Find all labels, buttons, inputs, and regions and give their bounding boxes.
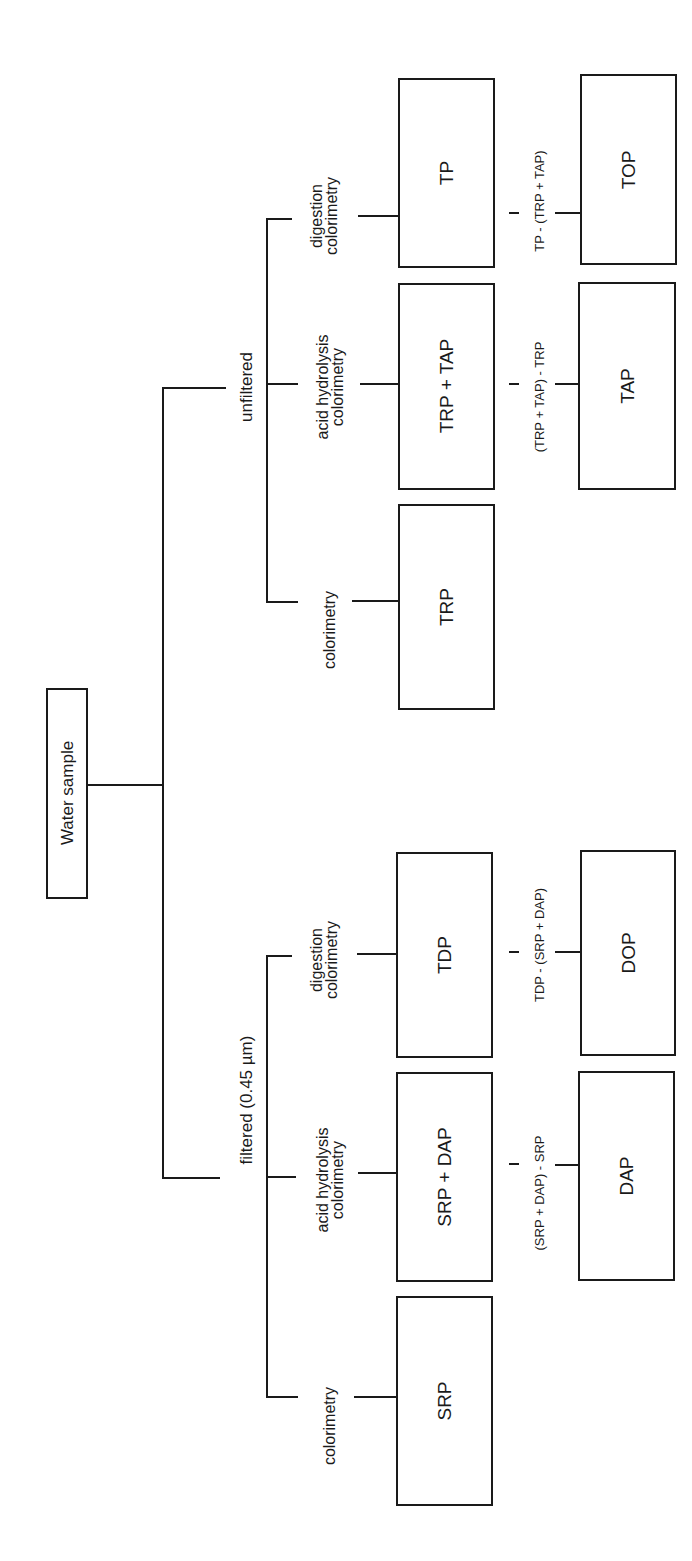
measured-label-tp: TP [437, 161, 456, 185]
unfiltered-colorimetry-to-box [352, 600, 398, 602]
unfiltered-digestion-tick [266, 218, 292, 220]
unfiltered-acid-to-box [360, 383, 398, 385]
root-connector [88, 784, 164, 786]
derived-label-dap: DAP [617, 1156, 636, 1195]
formula-tdp-dop: TDP - (SRP + DAP) [533, 888, 546, 1002]
filtered-colorimetry-to-box [354, 1396, 396, 1398]
derived-label-dop: DOP [619, 932, 638, 973]
method-line: colorimetry [324, 177, 339, 255]
branch-label-filtered: filtered (0.45 µm) [238, 1036, 255, 1165]
srp-dap-to-dap-connector [555, 1164, 578, 1166]
filtered-connector [162, 1177, 220, 1179]
formula-trp-tap-tap: (TRP + TAP) - TRP [533, 342, 546, 453]
measured-label-trp-tap: TRP + TAP [437, 339, 456, 434]
measured-label-trp: TRP [437, 588, 456, 626]
method-line: digestion [309, 921, 324, 999]
method-label-filtered-colorimetry: colorimetry [322, 1387, 337, 1465]
trp-tap-formula-tick [509, 383, 519, 385]
method-line: acid hydrolysis [315, 335, 330, 440]
measured-label-tdp: TDP [435, 936, 454, 974]
method-label-filtered-acid: acid hydrolysis colorimetry [315, 1128, 345, 1233]
method-label-unfiltered-colorimetry: colorimetry [322, 591, 337, 669]
method-label-unfiltered-digestion: digestion colorimetry [309, 177, 339, 255]
measured-label-srp-dap: SRP + DAP [435, 1127, 454, 1226]
derived-label-top: TOP [619, 151, 638, 190]
unfiltered-acid-tick [266, 383, 298, 385]
tp-formula-tick [509, 212, 519, 214]
tdp-to-dop-connector [555, 951, 580, 953]
method-label-filtered-digestion: digestion colorimetry [309, 921, 339, 999]
root-node-label: Water sample [59, 741, 76, 845]
method-line: digestion [309, 177, 324, 255]
method-line: acid hydrolysis [315, 1128, 330, 1233]
unfiltered-sub-spine [266, 218, 268, 603]
tp-to-top-connector [555, 212, 580, 214]
formula-tp-top: TP - (TRP + TAP) [533, 150, 546, 251]
filtered-acid-tick [266, 1176, 296, 1178]
tdp-formula-tick [509, 951, 519, 953]
branch-label-unfiltered: unfiltered [238, 352, 255, 422]
method-line: colorimetry [330, 1128, 345, 1233]
formula-srp-dap-dap: (SRP + DAP) - SRP [533, 1136, 546, 1251]
derived-label-tap: TAP [618, 368, 637, 404]
srp-dap-formula-tick [509, 1163, 519, 1165]
method-label-unfiltered-acid: acid hydrolysis colorimetry [315, 335, 345, 440]
trp-tap-to-tap-connector [555, 383, 580, 385]
method-line: colorimetry [330, 335, 345, 440]
unfiltered-colorimetry-tick [266, 601, 298, 603]
filtered-acid-to-box [358, 1172, 397, 1174]
main-spine [162, 387, 164, 1179]
measured-label-srp: SRP [435, 1381, 454, 1420]
filtered-digestion-tick [266, 955, 292, 957]
filtered-digestion-to-box [357, 953, 397, 955]
unfiltered-digestion-to-box [358, 215, 398, 217]
method-line: colorimetry [324, 921, 339, 999]
filtered-colorimetry-tick [266, 1396, 298, 1398]
unfiltered-connector [162, 387, 226, 389]
